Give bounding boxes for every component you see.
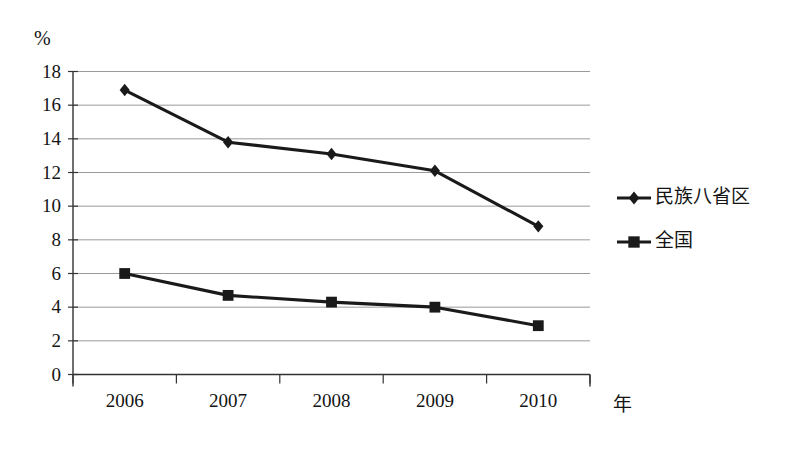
y-tick-label: 12 (21, 163, 61, 182)
data-point-marker-square (119, 268, 130, 279)
chart-container: % 年 024681012141618 20062007200820092010… (0, 0, 796, 461)
data-point-marker-square (628, 236, 639, 247)
x-tick-label: 2008 (292, 391, 372, 410)
data-point-marker-diamond (629, 191, 640, 204)
gridlines-group (73, 72, 590, 375)
data-point-marker-square (533, 320, 544, 331)
data-point-marker-diamond (120, 84, 130, 96)
x-tick-marks-group (73, 375, 590, 384)
x-tick-label: 2006 (85, 391, 165, 410)
x-tick-label: 2007 (188, 391, 268, 410)
y-tick-label: 18 (21, 62, 61, 81)
data-point-marker-diamond (533, 220, 543, 232)
y-tick-label: 2 (21, 331, 61, 350)
data-point-marker-diamond (223, 136, 233, 148)
data-point-marker-diamond (326, 148, 336, 160)
x-tick-label: 2010 (498, 391, 578, 410)
legend-label-2: 全国 (655, 231, 693, 250)
data-point-marker-diamond (430, 165, 440, 177)
legend-markers-group (617, 191, 651, 247)
y-tick-label: 4 (21, 297, 61, 316)
y-tick-label: 10 (21, 196, 61, 215)
x-tick-label: 2009 (395, 391, 475, 410)
data-point-marker-square (326, 297, 337, 308)
y-tick-label: 8 (21, 230, 61, 249)
y-tick-label: 16 (21, 95, 61, 114)
series-1 (120, 84, 544, 233)
data-series-group (119, 84, 543, 331)
y-tick-label: 0 (21, 365, 61, 384)
data-point-marker-square (223, 290, 234, 301)
axis-lines-group (73, 72, 590, 387)
series-2 (119, 268, 543, 331)
y-tick-label: 6 (21, 264, 61, 283)
data-point-marker-square (430, 302, 441, 313)
legend-label-1: 民族八省区 (655, 187, 750, 206)
y-tick-label: 14 (21, 129, 61, 148)
